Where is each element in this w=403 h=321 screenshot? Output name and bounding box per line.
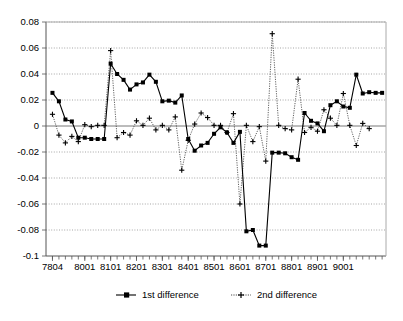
data-point-2nd-difference [302,130,307,135]
data-point-2nd-difference [160,123,165,128]
data-point-2nd-difference [263,159,268,164]
data-point-1st-difference [70,119,74,123]
x-axis-tick-label: 8201 [126,261,147,272]
data-point-2nd-difference [270,31,275,36]
chart-container: 0.080.060.040.020-0.02-0.04-0.06-0.08-0.… [0,0,403,321]
y-axis-tick-label: -0.08 [17,224,39,235]
y-axis-tick-label: -0.04 [17,172,39,183]
data-point-2nd-difference [179,168,184,173]
data-point-1st-difference [167,99,171,103]
data-point-2nd-difference [244,123,249,128]
data-point-1st-difference [277,151,281,155]
data-point-1st-difference [141,80,145,84]
data-point-1st-difference [180,93,184,97]
difference-line-chart: 0.080.060.040.020-0.02-0.04-0.06-0.08-0.… [0,0,403,321]
legend-item-2nd-difference[interactable]: 2nd difference [231,289,317,300]
legend-plus-marker-icon [238,292,244,298]
data-point-1st-difference [374,91,378,95]
series-line-2nd-difference [52,34,369,204]
data-point-1st-difference [57,99,61,103]
x-axis-tick-label: 9001 [333,261,354,272]
data-point-1st-difference [361,92,365,96]
data-point-1st-difference [219,125,223,129]
data-point-1st-difference [335,99,339,103]
data-point-2nd-difference [89,124,94,129]
data-point-1st-difference [283,151,287,155]
data-point-1st-difference [160,99,164,103]
data-point-1st-difference [193,149,197,153]
data-point-1st-difference [102,137,106,141]
data-point-1st-difference [251,228,255,232]
data-point-1st-difference [290,155,294,159]
x-axis-tick-label: 8101 [100,261,121,272]
data-point-1st-difference [212,132,216,136]
data-point-2nd-difference [276,123,281,128]
data-point-1st-difference [380,91,384,95]
data-point-2nd-difference [199,110,204,115]
data-point-1st-difference [238,130,242,134]
data-point-1st-difference [328,103,332,107]
data-point-1st-difference [115,72,119,76]
data-point-1st-difference [348,106,352,110]
data-point-1st-difference [341,105,345,109]
data-point-2nd-difference [347,123,352,128]
data-point-1st-difference [270,151,274,155]
legend-square-marker-icon [124,292,129,297]
x-axis-tick-label: 7804 [42,261,63,272]
legend-item-1st-difference[interactable]: 1st difference [116,289,199,300]
data-point-2nd-difference [237,201,242,206]
y-axis-tick-label: 0.04 [21,68,40,79]
data-point-2nd-difference [108,48,113,53]
data-point-1st-difference [244,229,248,233]
data-point-1st-difference [264,244,268,248]
data-point-1st-difference [309,119,313,123]
x-axis-tick-label: 8301 [152,261,173,272]
x-axis-tick-label: 8401 [178,261,199,272]
data-point-2nd-difference [231,111,236,116]
data-point-1st-difference [322,129,326,133]
data-point-1st-difference [206,141,210,145]
x-axis-tick-label: 8001 [74,261,95,272]
data-point-1st-difference [50,91,54,95]
data-point-1st-difference [257,244,261,248]
y-axis-tick-label: 0.02 [21,94,40,105]
data-point-1st-difference [296,158,300,162]
data-point-1st-difference [367,90,371,94]
data-point-1st-difference [89,137,93,141]
data-point-2nd-difference [289,127,294,132]
data-point-2nd-difference [283,126,288,131]
data-point-1st-difference [354,73,358,77]
data-point-2nd-difference [127,133,132,138]
data-point-2nd-difference [360,121,365,126]
data-point-1st-difference [199,144,203,148]
data-point-1st-difference [173,101,177,105]
y-axis-tick-label: -0.02 [17,146,39,157]
data-point-2nd-difference [257,124,262,129]
data-point-1st-difference [154,80,158,84]
chart-legend[interactable]: 1st difference2nd difference [116,289,317,300]
data-point-1st-difference [63,118,67,122]
y-axis-labels: 0.080.060.040.020-0.02-0.04-0.06-0.08-0.… [17,16,39,261]
y-axis-tick-label: 0 [34,120,39,131]
data-point-1st-difference [225,131,229,135]
data-point-2nd-difference [153,127,158,132]
data-point-1st-difference [122,78,126,82]
data-point-2nd-difference [95,123,100,128]
data-point-2nd-difference [341,91,346,96]
data-point-1st-difference [128,88,132,92]
x-axis-labels: 7804800181018201830184018501860187018801… [42,261,354,272]
data-point-1st-difference [315,121,319,125]
y-axis-tick-label: 0.08 [21,16,40,27]
data-point-2nd-difference [205,115,210,120]
data-point-1st-difference [76,136,80,140]
data-point-2nd-difference [315,129,320,134]
y-axis-tick-label: 0.06 [21,42,40,53]
legend-label: 1st difference [142,289,199,300]
data-point-2nd-difference [354,143,359,148]
data-point-2nd-difference [173,114,178,119]
legend-label: 2nd difference [257,289,317,300]
data-point-1st-difference [186,137,190,141]
y-axis-tick-label: -0.06 [17,198,39,209]
data-point-1st-difference [96,137,100,141]
data-point-1st-difference [134,82,138,86]
